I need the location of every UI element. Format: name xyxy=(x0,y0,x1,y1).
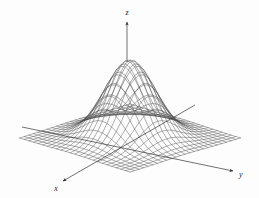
x-axis-label: x xyxy=(53,184,58,193)
mesh-line xyxy=(116,134,226,168)
mesh-line xyxy=(79,61,189,153)
surface-plot-canvas: z y x xyxy=(0,0,259,198)
axis-labels-group: z y x xyxy=(53,8,243,193)
mesh-line xyxy=(20,138,130,172)
axes-group xyxy=(22,22,233,181)
mesh-line xyxy=(121,107,231,141)
mesh-line xyxy=(70,61,180,153)
mesh-line xyxy=(75,60,185,154)
y-axis-line xyxy=(22,127,233,171)
z-axis-label: z xyxy=(124,8,129,17)
mesh-line xyxy=(121,135,231,169)
mesh-line xyxy=(56,96,166,160)
mesh-line xyxy=(24,137,134,171)
mesh-line xyxy=(75,60,185,154)
y-axis-label: y xyxy=(238,170,243,179)
mesh-line xyxy=(29,107,139,141)
mesh-line xyxy=(93,96,203,160)
mesh-line xyxy=(66,66,176,151)
mesh-line xyxy=(125,137,235,171)
mesh-line xyxy=(84,66,194,151)
mesh-line xyxy=(130,138,240,172)
gaussian-surface-figure: z y x xyxy=(0,0,259,198)
mesh-line xyxy=(33,134,143,168)
wireframe-mesh xyxy=(20,60,241,172)
